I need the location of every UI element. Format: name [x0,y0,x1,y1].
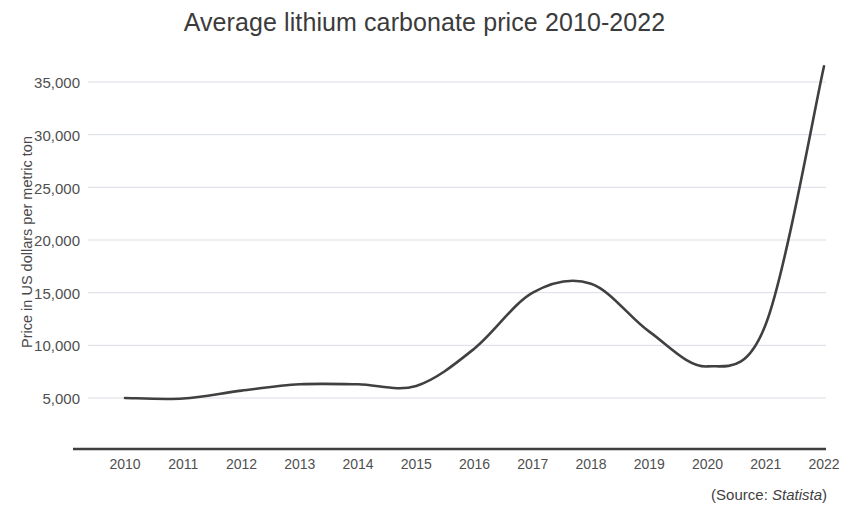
x-tick-label: 2019 [621,456,677,472]
x-tick-label: 2018 [563,456,619,472]
x-tick-label: 2012 [214,456,270,472]
x-tick-label: 2021 [738,456,794,472]
x-tick-label: 2020 [680,456,736,472]
x-tick-label: 2017 [505,456,561,472]
source-prefix: (Source: [711,486,772,503]
x-tick-label: 2010 [97,456,153,472]
x-tick-label: 2016 [447,456,503,472]
gridlines [88,82,826,398]
plot-canvas [0,0,849,508]
data-series-line [125,66,824,399]
x-tick-label: 2014 [330,456,386,472]
x-tick-label: 2015 [388,456,444,472]
source-note: (Source: Statista) [711,486,827,503]
source-name: Statista [772,486,822,503]
x-tick-label: 2022 [796,456,849,472]
x-tick-label: 2013 [272,456,328,472]
chart-figure: Average lithium carbonate price 2010-202… [0,0,849,508]
source-suffix: ) [822,486,827,503]
x-tick-label: 2011 [155,456,211,472]
